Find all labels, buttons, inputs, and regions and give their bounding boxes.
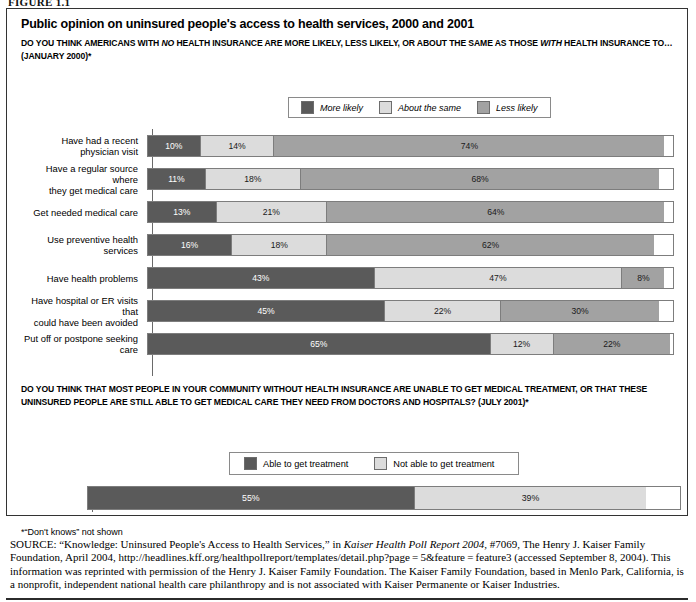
- legend-swatch-icon: [379, 101, 392, 114]
- chart-july-2001: 55%39%: [21, 486, 681, 512]
- chart-row-bars: 45%22%30%: [147, 300, 674, 322]
- chart-row: 55%39%: [21, 486, 681, 510]
- legend-1-item-2: Less likely: [477, 101, 538, 114]
- bar-segment: 14%: [201, 136, 275, 156]
- source-italic-title: Kaiser Health Poll Report 2004,: [344, 538, 487, 550]
- legend-2-label: Able to get treatment: [263, 459, 348, 469]
- chart-row-label: Put off or postpone seeking care: [21, 333, 147, 355]
- source-text-1: “Knowledge: Uninsured People's Access to…: [56, 538, 343, 550]
- legend-2-label: Not able to get treatment: [393, 459, 494, 469]
- bar-segment: 11%: [148, 169, 206, 189]
- legend-2-item-0: Able to get treatment: [244, 457, 348, 470]
- chart-row: Put off or postpone seeking care65%12%22…: [21, 333, 681, 355]
- figure-label: FIGURE 1.1: [8, 0, 70, 6]
- question-1-italic-no: NO: [161, 38, 174, 48]
- chart-row-bars: 43%47%8%: [147, 267, 674, 289]
- legend-chart-1: More likelyAbout the sameLess likely: [288, 97, 551, 118]
- legend-1-item-0: More likely: [301, 101, 363, 114]
- source-note: SOURCE: “Knowledge: Uninsured People's A…: [10, 538, 686, 592]
- bar-segment: 64%: [327, 202, 664, 222]
- question-1-part-a: DO YOU THINK AMERICANS WITH: [21, 38, 161, 48]
- bar-segment: 18%: [206, 169, 301, 189]
- bar-segment: 47%: [375, 268, 623, 288]
- bar-segment: 39%: [415, 487, 647, 509]
- bar-segment: 8%: [622, 268, 664, 288]
- legend-swatch-icon: [477, 101, 490, 114]
- question-1-italic-with: WITH: [540, 38, 562, 48]
- bar-segment: 55%: [88, 487, 415, 509]
- legend-swatch-icon: [374, 457, 387, 470]
- bar-segment: 22%: [554, 334, 670, 354]
- bar-segment: 68%: [301, 169, 659, 189]
- bar-segment: 43%: [148, 268, 375, 288]
- chart-row-bars: 65%12%22%: [147, 333, 674, 355]
- chart-row-bars: 11%18%68%: [147, 168, 674, 190]
- chart-row-label: Have had a recentphysician visit: [21, 135, 147, 157]
- source-prefix: SOURCE:: [10, 538, 56, 550]
- bar-segment: 16%: [148, 235, 232, 255]
- chart-row-label: Have hospital or ER visits thatcould hav…: [21, 295, 147, 328]
- chart-row-bars: 13%21%64%: [147, 201, 674, 223]
- bar-segment: 12%: [491, 334, 554, 354]
- chart-row: Have had a recentphysician visit10%14%74…: [21, 135, 681, 157]
- chart-row-label: Get needed medical care: [21, 207, 147, 218]
- page-title: Public opinion on uninsured people's acc…: [21, 17, 474, 31]
- legend-2-item-1: Not able to get treatment: [374, 457, 494, 470]
- question-2-body: DO YOU THINK THAT MOST PEOPLE IN YOUR CO…: [21, 384, 647, 407]
- chart-row-label: Have a regular source wherethey get medi…: [21, 163, 147, 196]
- figure-panel: Public opinion on uninsured people's acc…: [6, 8, 688, 516]
- bar-segment: 45%: [148, 301, 385, 321]
- bar-segment: 65%: [148, 334, 491, 354]
- bar-segment: 22%: [385, 301, 501, 321]
- chart-row: Have hospital or ER visits thatcould hav…: [21, 300, 681, 322]
- legend-1-label: More likely: [320, 103, 363, 113]
- chart-row-label: Use preventive health services: [21, 234, 147, 256]
- legend-chart-2: Able to get treatmentNot able to get tre…: [229, 452, 519, 475]
- chart-row-bars: 55%39%: [87, 486, 681, 510]
- question-1-text: DO YOU THINK AMERICANS WITH NO HEALTH IN…: [21, 37, 677, 62]
- legend-1-label: About the same: [398, 103, 461, 113]
- legend-swatch-icon: [301, 101, 314, 114]
- chart-row-bars: 16%18%62%: [147, 234, 674, 256]
- bottom-rule: [6, 598, 688, 600]
- bar-segment: 21%: [217, 202, 328, 222]
- chart-row: Get needed medical care13%21%64%: [21, 201, 681, 223]
- chart-row-bars: 10%14%74%: [147, 135, 674, 157]
- question-2-text: DO YOU THINK THAT MOST PEOPLE IN YOUR CO…: [21, 383, 677, 408]
- bar-segment: 18%: [232, 235, 327, 255]
- chart-row-label: Have health problems: [21, 273, 147, 284]
- legend-swatch-icon: [244, 457, 257, 470]
- bar-segment: 62%: [327, 235, 654, 255]
- chart-row: Have health problems43%47%8%: [21, 267, 681, 289]
- chart-row: Have a regular source wherethey get medi…: [21, 168, 681, 190]
- legend-1-label: Less likely: [496, 103, 538, 113]
- bar-segment: 74%: [274, 136, 664, 156]
- chart-january-2000: Have had a recentphysician visit10%14%74…: [21, 129, 681, 376]
- bar-segment: 13%: [148, 202, 217, 222]
- footnote-dont-knows: *“Don't knows” not shown: [21, 527, 123, 537]
- chart-row: Use preventive health services16%18%62%: [21, 234, 681, 256]
- bar-segment: 30%: [501, 301, 659, 321]
- bar-segment: 10%: [148, 136, 201, 156]
- legend-1-item-1: About the same: [379, 101, 461, 114]
- question-1-part-b: HEALTH INSURANCE ARE MORE LIKELY, LESS L…: [174, 38, 540, 48]
